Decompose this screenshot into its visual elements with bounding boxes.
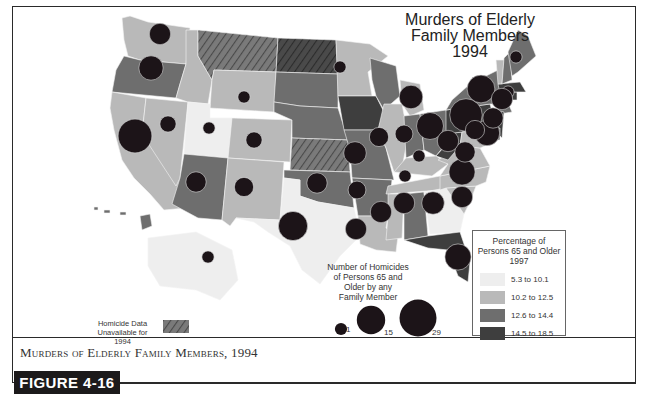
legend-swatch-c3: [480, 309, 505, 322]
no-data-legend-line: Unavailable for 1994: [90, 328, 155, 346]
homicide-bubble-az: [186, 172, 206, 192]
no-data-legend-line: Homicide Data: [90, 319, 155, 328]
homicide-bubble-ky: [413, 150, 425, 162]
legend-swatch-c1: [480, 273, 505, 286]
state-nm: [222, 158, 284, 226]
homicide-bubble-fl: [445, 244, 471, 270]
homicide-bubble-ut: [203, 122, 215, 134]
no-data-legend-label: Homicide Data Unavailable for 1994: [90, 319, 155, 346]
figure-number-tag: FIGURE 4-16: [14, 371, 120, 394]
homicide-bubble-al: [393, 192, 414, 213]
homicide-bubble-nc: [449, 159, 475, 185]
homicide-bubble-wa: [149, 23, 170, 44]
homicide-bubble-ga: [422, 192, 445, 215]
homicide-bubble-ct: [483, 108, 503, 128]
size-legend-bubble-29: [400, 300, 437, 337]
homicide-bubble-sc: [451, 186, 472, 207]
size-legend-title: Number of Homicides of Persons 65 and Ol…: [318, 262, 418, 302]
state-ia: [338, 96, 384, 130]
homicide-bubble-ny: [467, 75, 495, 103]
state-sd: [274, 72, 338, 108]
legend-label: 12.6 to 14.4: [511, 311, 553, 320]
homicide-bubble-ma: [491, 88, 512, 109]
homicide-bubble-mo: [344, 142, 367, 165]
legend-label: 5.3 to 10.1: [511, 275, 549, 284]
homicide-bubble-or: [139, 56, 163, 80]
state-nd: [276, 38, 338, 74]
percent-legend-title: Percentage of Persons 65 and Older 1997: [473, 236, 565, 266]
size-legend-title-line: Number of Homicides: [318, 262, 418, 272]
homicide-bubble-nv: [160, 116, 176, 132]
state-ks: [290, 138, 350, 172]
homicide-bubble-in: [395, 125, 413, 143]
homicide-bubble-la: [345, 218, 366, 239]
size-legend-title-line: Family Member: [318, 292, 418, 302]
legend-label: 10.2 to 12.5: [511, 293, 553, 302]
map-title-line-1: Murders of Elderly: [375, 12, 565, 28]
homicide-bubble-ms: [370, 201, 391, 222]
size-legend-label-small: 1: [346, 325, 350, 334]
homicide-bubble-ca: [118, 119, 152, 153]
percent-legend-title-line: 1997: [473, 256, 565, 266]
size-legend-bubble-15: [357, 306, 385, 334]
legend-swatch-c4: [480, 327, 505, 340]
map-title-line-2: Family Members: [375, 28, 565, 44]
homicide-bubble-il: [369, 127, 388, 146]
legend-label: 14.5 to 18.5: [511, 329, 553, 338]
homicide-bubble-co: [246, 132, 262, 148]
map-title-line-3: 1994: [375, 44, 565, 60]
homicide-bubble-tx: [278, 211, 307, 240]
figure-caption: Murders of Elderly Family Members, 1994: [20, 345, 258, 361]
homicide-bubble-ak: [202, 251, 214, 263]
legend-swatch-c2: [480, 291, 505, 304]
percent-legend-item: 5.3 to 10.1: [480, 272, 549, 286]
percent-legend-item: 14.5 to 18.5: [480, 326, 553, 340]
homicide-bubble-mi: [399, 85, 423, 109]
no-data-swatch: [163, 320, 189, 333]
percent-legend-item: 10.2 to 12.5: [480, 290, 553, 304]
percent-legend: Percentage of Persons 65 and Older 1997 …: [472, 230, 566, 336]
percent-legend-title-line: Percentage of: [473, 236, 565, 246]
percent-legend-title-line: Persons 65 and Older: [473, 246, 565, 256]
homicide-bubble-ok: [307, 173, 327, 193]
size-legend-title-line: Older by any: [318, 282, 418, 292]
homicide-bubble-wy: [238, 91, 250, 103]
homicide-bubble-md: [465, 120, 484, 139]
size-legend-label-medium: 15: [384, 328, 393, 337]
homicide-bubble-nm: [234, 177, 253, 196]
homicide-bubble-wv: [437, 130, 458, 151]
homicide-bubble-mn: [334, 61, 346, 73]
size-legend-label-large: 29: [432, 328, 441, 337]
state-ak: [148, 232, 238, 300]
homicide-bubble-tn: [399, 170, 411, 182]
map-title: Murders of Elderly Family Members 1994: [375, 12, 565, 60]
size-legend-title-line: of Persons 65 and: [318, 272, 418, 282]
state-hi: [94, 207, 152, 230]
caption-bottom-rule: [77, 383, 636, 384]
homicide-bubble-ar: [348, 181, 366, 199]
percent-legend-item: 12.6 to 14.4: [480, 308, 553, 322]
